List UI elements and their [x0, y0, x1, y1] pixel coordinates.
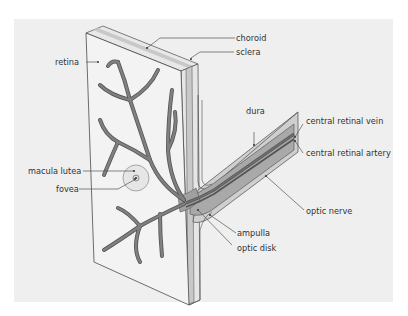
label-central-retinal-artery: central retinal artery: [306, 148, 391, 158]
macula-lutea: [123, 165, 149, 191]
labels: retina choroid sclera dura central retin…: [28, 33, 391, 253]
label-macula-lutea: macula lutea: [28, 166, 81, 176]
label-optic-disk: optic disk: [237, 243, 277, 253]
retina-slab: [86, 26, 200, 305]
retina-diagram: retina choroid sclera dura central retin…: [0, 0, 408, 316]
label-retina: retina: [55, 57, 79, 67]
label-fovea: fovea: [56, 184, 79, 194]
label-central-retinal-vein: central retinal vein: [306, 116, 383, 126]
label-choroid: choroid: [236, 33, 266, 43]
label-dura: dura: [246, 106, 265, 116]
label-ampulla: ampulla: [237, 228, 270, 238]
label-optic-nerve: optic nerve: [306, 206, 352, 216]
label-sclera: sclera: [236, 47, 260, 57]
